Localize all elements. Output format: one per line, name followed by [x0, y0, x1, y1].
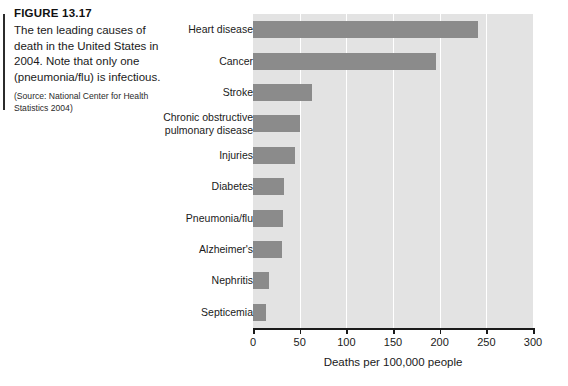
- x-tick-label-200: 200: [430, 336, 448, 348]
- category-label-diabetes: Diabetes: [212, 180, 253, 193]
- x-tick-0: [253, 328, 255, 334]
- category-label-injuries: Injuries: [219, 149, 253, 162]
- x-tick-label-150: 150: [384, 336, 402, 348]
- category-axis-labels: Heart diseaseCancerStrokeChronic obstruc…: [0, 14, 568, 328]
- x-axis-title: Deaths per 100,000 people: [253, 356, 533, 368]
- category-label-septicemia: Septicemia: [201, 306, 253, 319]
- category-label-chronic-obstructive-pulmonary-disease: Chronic obstructivepulmonary disease: [163, 111, 253, 137]
- x-tick-label-100: 100: [337, 336, 355, 348]
- x-tick-200: [440, 328, 442, 334]
- category-label-nephritis: Nephritis: [212, 274, 253, 287]
- category-label-heart-disease: Heart disease: [188, 23, 253, 36]
- x-tick-50: [300, 328, 302, 334]
- x-tick-label-300: 300: [524, 336, 542, 348]
- category-label-stroke: Stroke: [223, 86, 253, 99]
- category-label-cancer: Cancer: [219, 55, 253, 68]
- x-tick-300: [533, 328, 535, 334]
- bar-chart: Heart diseaseCancerStrokeChronic obstruc…: [0, 0, 568, 386]
- category-label-alzheimer-s: Alzheimer's: [199, 243, 253, 256]
- x-tick-250: [486, 328, 488, 334]
- x-tick-150: [393, 328, 395, 334]
- x-tick-label-0: 0: [250, 336, 256, 348]
- category-label-pneumonia-flu: Pneumonia/flu: [186, 212, 253, 225]
- x-tick-label-50: 50: [294, 336, 306, 348]
- x-tick-label-250: 250: [477, 336, 495, 348]
- x-tick-100: [346, 328, 348, 334]
